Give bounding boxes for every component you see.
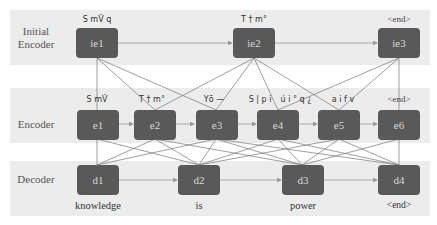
node-ie3: ie3 — [378, 28, 420, 58]
d1-word-label: knowledge — [75, 200, 121, 211]
d2-word-label: is — [195, 200, 202, 211]
node-e4: e4 — [257, 110, 299, 140]
node-ie1: ie1 — [76, 28, 118, 58]
node-d2: d2 — [178, 165, 220, 195]
initial-encoder-label-line1: Initial — [6, 25, 66, 38]
node-e2: e2 — [134, 110, 176, 140]
node-e6: e6 — [378, 110, 420, 140]
node-e3: e3 — [196, 110, 238, 140]
node-ie2: ie2 — [233, 28, 275, 58]
e3-top-label: Yō — — [204, 95, 224, 104]
ie3-top-label: <end> — [387, 14, 410, 24]
e5-top-label: a i f v — [332, 95, 354, 104]
node-e1: e1 — [77, 110, 119, 140]
initial-encoder-label-line2: Encoder — [6, 38, 66, 51]
decoder-row-label: Decoder — [6, 173, 66, 186]
e2-top-label: T † m° — [139, 95, 165, 104]
e6-top-label: <end> — [387, 94, 410, 104]
d4-word-label: <end> — [387, 200, 411, 210]
e4-extra-label: ú i ° q ¿ — [281, 95, 312, 104]
e4-top-label: S | p i — [249, 95, 272, 104]
node-d3: d3 — [282, 165, 324, 195]
ie2-top-label: T † m° — [241, 15, 267, 24]
node-d4: d4 — [378, 165, 420, 195]
d3-word-label: power — [290, 200, 316, 211]
e1-top-label: S mV̌ — [87, 95, 108, 104]
encoder-row-label: Encoder — [6, 118, 66, 131]
ie1-top-label: S mV̌ q — [83, 15, 112, 24]
initial-encoder-row-label: Initial Encoder — [6, 25, 66, 51]
node-d1: d1 — [77, 165, 119, 195]
node-e5: e5 — [318, 110, 360, 140]
